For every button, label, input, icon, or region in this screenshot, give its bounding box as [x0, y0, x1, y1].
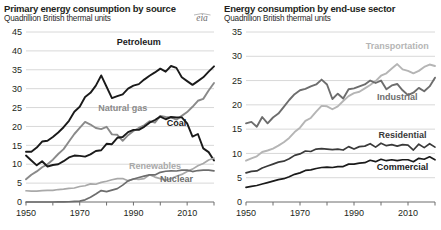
- chart-subtitle-right: Quadrillion British thermal units: [224, 14, 331, 23]
- x-axis-tick-label: 1990: [344, 208, 364, 218]
- series-line-industrial: [246, 78, 435, 127]
- y-axis-tick-label: 30: [232, 51, 242, 61]
- y-axis-tick-label: 5: [17, 178, 22, 188]
- series-label-nuclear: Nuclear: [160, 174, 194, 184]
- svg-text:eia: eia: [196, 13, 208, 23]
- page-title-right: Energy consumption by end-use sector: [224, 3, 395, 14]
- series-label-petroleum: Petroleum: [117, 37, 161, 47]
- y-axis-tick-label: 10: [232, 149, 242, 159]
- series-label-renewables: Renewables: [129, 161, 181, 171]
- y-axis-tick-label: 40: [12, 46, 22, 56]
- y-axis-tick-label: 30: [12, 84, 22, 94]
- series-line-transportation: [246, 64, 435, 161]
- y-axis-tick-label: 10: [12, 159, 22, 169]
- plot-area-left: 0510152025303540451950197019902010Petrol…: [0, 24, 220, 224]
- series-label-commercial: Commercial: [377, 162, 429, 172]
- x-axis-tick-label: 1950: [16, 208, 36, 218]
- eia-energy-charts: Primary energy consumption by source Qua…: [0, 0, 441, 230]
- chart-subtitle: Quadrillion British thermal units: [4, 14, 111, 23]
- series-label-natural-gas: Natural gas: [98, 103, 147, 113]
- x-axis-tick-label: 1970: [70, 208, 90, 218]
- y-axis-tick-label: 35: [232, 27, 242, 37]
- y-axis-tick-label: 0: [237, 197, 242, 207]
- y-axis-tick-label: 20: [232, 100, 242, 110]
- page-title: Primary energy consumption by source: [4, 3, 176, 14]
- y-axis-tick-label: 0: [17, 197, 22, 207]
- x-axis-tick-label: 2010: [398, 208, 418, 218]
- y-axis-tick-label: 45: [12, 27, 22, 37]
- x-axis-tick-label: 2010: [177, 208, 197, 218]
- y-axis-tick-label: 25: [232, 76, 242, 86]
- series-label-coal: Coal: [167, 118, 187, 128]
- y-axis-tick-label: 35: [12, 65, 22, 75]
- x-axis-tick-label: 1950: [236, 208, 256, 218]
- y-axis-tick-label: 15: [232, 124, 242, 134]
- series-label-transportation: Transportation: [366, 41, 429, 51]
- x-axis-tick-label: 1970: [290, 208, 310, 218]
- series-label-residential: Residential: [379, 130, 427, 140]
- y-axis-tick-label: 15: [12, 141, 22, 151]
- y-axis-tick-label: 20: [12, 122, 22, 132]
- y-axis-tick-label: 25: [12, 103, 22, 113]
- series-label-industrial: Industrial: [377, 92, 418, 102]
- x-axis-tick-label: 1990: [123, 208, 143, 218]
- chart-panel-end-use-sector: Energy consumption by end-use sector Qua…: [220, 0, 441, 230]
- plot-area-right: 051015202530351950197019902010Transporta…: [220, 24, 441, 224]
- chart-panel-primary-energy: Primary energy consumption by source Qua…: [0, 0, 220, 230]
- y-axis-tick-label: 5: [237, 173, 242, 183]
